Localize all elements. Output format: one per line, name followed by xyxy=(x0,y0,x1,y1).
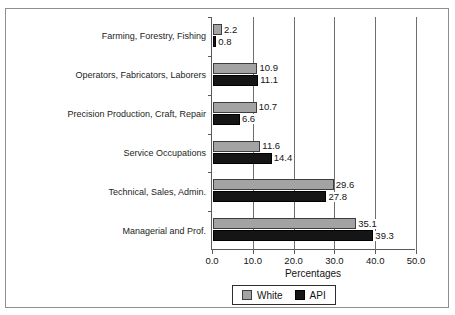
bar-white[interactable]: 11.6 xyxy=(213,141,260,152)
bar-api[interactable]: 11.1 xyxy=(213,75,258,86)
legend-label-api: API xyxy=(310,290,326,301)
bar-value-label: 11.1 xyxy=(259,75,279,85)
x-axis-tick-label: 40.0 xyxy=(366,255,385,266)
x-axis-tick xyxy=(416,250,417,254)
x-axis-tick xyxy=(253,250,254,254)
legend-entry-api[interactable]: API xyxy=(295,290,326,301)
x-axis-title: Percentages xyxy=(211,268,415,279)
bar-value-label: 6.6 xyxy=(241,114,256,124)
chart-category-row: Farming, Forestry, Fishing2.20.8 xyxy=(212,17,415,56)
category-label: Technical, Sales, Admin. xyxy=(108,187,206,197)
x-axis-tick-label: 0.0 xyxy=(205,255,218,266)
bar-value-label: 10.9 xyxy=(258,63,279,73)
bar-value-label: 14.4 xyxy=(273,153,294,163)
x-axis-tick-label: 50.0 xyxy=(407,255,426,266)
plot-area: 0.010.020.030.040.050.0Farming, Forestry… xyxy=(211,17,415,250)
x-axis-tick-label: 30.0 xyxy=(325,255,344,266)
chart-category-row: Operators, Fabricators, Laborers10.911.1 xyxy=(212,56,415,95)
bar-value-label: 2.2 xyxy=(223,25,238,35)
bar-value-label: 11.6 xyxy=(261,141,281,151)
category-label: Farming, Forestry, Fishing xyxy=(102,31,206,41)
bar-api[interactable]: 14.4 xyxy=(213,153,272,164)
category-axis-tick xyxy=(208,56,212,57)
legend-swatch-api-icon xyxy=(295,290,305,300)
x-axis-tick xyxy=(294,250,295,254)
x-axis-tick xyxy=(375,250,376,254)
legend-label-white: White xyxy=(257,290,283,301)
bar-value-label: 27.8 xyxy=(327,192,348,202)
bar-value-label: 29.6 xyxy=(335,180,356,190)
category-label: Managerial and Prof. xyxy=(122,226,206,236)
bar-api[interactable]: 27.8 xyxy=(213,191,326,202)
bar-white[interactable]: 10.7 xyxy=(213,102,257,113)
chart-category-row: Managerial and Prof.35.139.3 xyxy=(212,211,415,250)
category-axis-tick xyxy=(208,134,212,135)
chart-category-row: Precision Production, Craft, Repair10.76… xyxy=(212,95,415,134)
chart-legend: White API xyxy=(232,285,336,305)
bar-value-label: 10.7 xyxy=(258,102,279,112)
chart-category-row: Technical, Sales, Admin.29.627.8 xyxy=(212,172,415,211)
category-axis-tick xyxy=(208,17,212,18)
bar-api[interactable]: 39.3 xyxy=(213,230,373,241)
bar-value-label: 0.8 xyxy=(217,37,232,47)
chart-figure: 0.010.020.030.040.050.0Farming, Forestry… xyxy=(0,0,455,315)
category-label: Operators, Fabricators, Laborers xyxy=(75,70,206,80)
bar-white[interactable]: 2.2 xyxy=(213,24,222,35)
bar-api[interactable]: 0.8 xyxy=(213,36,216,47)
category-label: Service Occupations xyxy=(123,148,206,158)
x-gridline xyxy=(416,17,417,250)
x-axis-tick-label: 20.0 xyxy=(284,255,303,266)
bar-value-label: 39.3 xyxy=(374,231,395,241)
bar-white[interactable]: 35.1 xyxy=(213,218,356,229)
category-axis-tick xyxy=(208,211,212,212)
category-axis-tick xyxy=(208,95,212,96)
bar-white[interactable]: 29.6 xyxy=(213,179,334,190)
category-label: Precision Production, Craft, Repair xyxy=(67,109,206,119)
legend-swatch-white-icon xyxy=(242,290,252,300)
bar-value-label: 35.1 xyxy=(357,219,378,229)
x-axis-tick xyxy=(334,250,335,254)
bar-api[interactable]: 6.6 xyxy=(213,114,240,125)
x-axis-tick xyxy=(212,250,213,254)
bar-white[interactable]: 10.9 xyxy=(213,63,257,74)
legend-entry-white[interactable]: White xyxy=(242,290,283,301)
category-axis-tick xyxy=(208,172,212,173)
chart-category-row: Service Occupations11.614.4 xyxy=(212,134,415,173)
x-axis-tick-label: 10.0 xyxy=(244,255,263,266)
